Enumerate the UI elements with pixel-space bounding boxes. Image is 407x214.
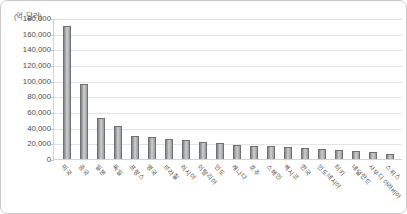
chart-screenshot: (억 달러) 180,000160,000140,000120,000100,0… xyxy=(0,0,407,214)
x-label-slot: 인도 xyxy=(211,162,228,214)
x-axis-tick-label: 독일 xyxy=(111,164,124,177)
bar-slot xyxy=(211,19,228,159)
x-label-slot: 프랑스 xyxy=(125,162,142,214)
bar-slot xyxy=(109,19,126,159)
bar[interactable] xyxy=(216,143,224,159)
y-tick-label: 100,000 xyxy=(23,78,51,86)
x-label-slot: 호주 xyxy=(245,162,262,214)
bar-slot xyxy=(382,19,399,159)
x-label-slot: 독일 xyxy=(108,162,125,214)
x-axis-tick-label: 한국 xyxy=(299,164,312,177)
x-label-slot: 한국 xyxy=(296,162,313,214)
y-tick-label: 20,000 xyxy=(27,140,51,148)
x-label-slot: 인도네시아 xyxy=(313,162,330,214)
x-label-slot: 사우디 아라비아 xyxy=(365,162,382,214)
x-axis-tick-label: 일본 xyxy=(94,164,107,177)
y-tick-mark xyxy=(51,160,54,161)
bar-slot xyxy=(297,19,314,159)
bar-slot xyxy=(143,19,160,159)
x-axis-tick-label: 중국 xyxy=(77,164,90,177)
bar[interactable] xyxy=(284,147,292,159)
bar[interactable] xyxy=(318,149,326,159)
x-label-slot: 러시아 xyxy=(177,162,194,214)
bar-series xyxy=(54,19,402,159)
bar-slot xyxy=(228,19,245,159)
bar-slot xyxy=(280,19,297,159)
x-label-slot: 스페인 xyxy=(262,162,279,214)
bar-slot xyxy=(75,19,92,159)
x-label-slot: 일본 xyxy=(91,162,108,214)
plot-area: 180,000160,000140,000120,000100,00080,00… xyxy=(1,19,407,214)
bar-slot xyxy=(263,19,280,159)
bar-slot xyxy=(314,19,331,159)
bar[interactable] xyxy=(267,146,275,159)
bar[interactable] xyxy=(301,148,309,159)
y-tick-label: 40,000 xyxy=(27,125,51,133)
x-axis-tick-label: 터키 xyxy=(333,164,346,177)
x-label-slot: 네덜란드 xyxy=(348,162,365,214)
x-axis-tick-label: 인도 xyxy=(214,164,227,177)
bar[interactable] xyxy=(182,140,190,159)
x-axis-tick-label: 영국 xyxy=(145,164,158,177)
bar[interactable] xyxy=(97,118,105,159)
bar-slot xyxy=(92,19,109,159)
y-tick-label: 140,000 xyxy=(23,46,51,54)
bar[interactable] xyxy=(114,126,122,159)
bar-slot xyxy=(126,19,143,159)
x-label-slot: 멕시코 xyxy=(279,162,296,214)
x-axis-tick-label: 스위스 xyxy=(385,164,402,181)
bar[interactable] xyxy=(250,146,258,159)
bar[interactable] xyxy=(386,154,394,159)
bar-slot xyxy=(177,19,194,159)
bar-slot xyxy=(160,19,177,159)
x-label-slot: 터키 xyxy=(331,162,348,214)
x-label-slot: 스위스 xyxy=(382,162,399,214)
bar[interactable] xyxy=(131,136,139,160)
bar-slot xyxy=(246,19,263,159)
x-label-slot: 미국 xyxy=(57,162,74,214)
x-axis-labels: 미국중국일본독일프랑스영국브라질러시아이탈리아인도캐나다호주스페인멕시코한국인도… xyxy=(53,162,402,214)
x-label-slot: 브라질 xyxy=(160,162,177,214)
x-label-slot: 이탈리아 xyxy=(194,162,211,214)
y-tick-label: 120,000 xyxy=(23,62,51,70)
bar[interactable] xyxy=(335,150,343,159)
x-label-slot: 영국 xyxy=(142,162,159,214)
grid-area xyxy=(53,19,402,160)
bar[interactable] xyxy=(352,151,360,159)
bar[interactable] xyxy=(199,142,207,159)
y-tick-label: 60,000 xyxy=(27,109,51,117)
bar-slot xyxy=(365,19,382,159)
bar-slot xyxy=(194,19,211,159)
bar[interactable] xyxy=(233,145,241,159)
bar[interactable] xyxy=(63,26,71,159)
bar[interactable] xyxy=(148,137,156,159)
bar[interactable] xyxy=(369,152,377,159)
y-tick-label: 80,000 xyxy=(27,93,51,101)
x-axis-tick-label: 호주 xyxy=(248,164,261,177)
bar[interactable] xyxy=(165,139,173,159)
y-tick-label: 160,000 xyxy=(23,31,51,39)
y-axis: 180,000160,000140,000120,000100,00080,00… xyxy=(7,19,51,160)
bar-slot xyxy=(58,19,75,159)
x-label-slot: 캐나다 xyxy=(228,162,245,214)
bar[interactable] xyxy=(80,84,88,159)
x-axis-tick-label: 미국 xyxy=(60,164,73,177)
y-tick-label: 180,000 xyxy=(23,15,51,23)
bar-slot xyxy=(348,19,365,159)
bar-slot xyxy=(331,19,348,159)
x-label-slot: 중국 xyxy=(74,162,91,214)
